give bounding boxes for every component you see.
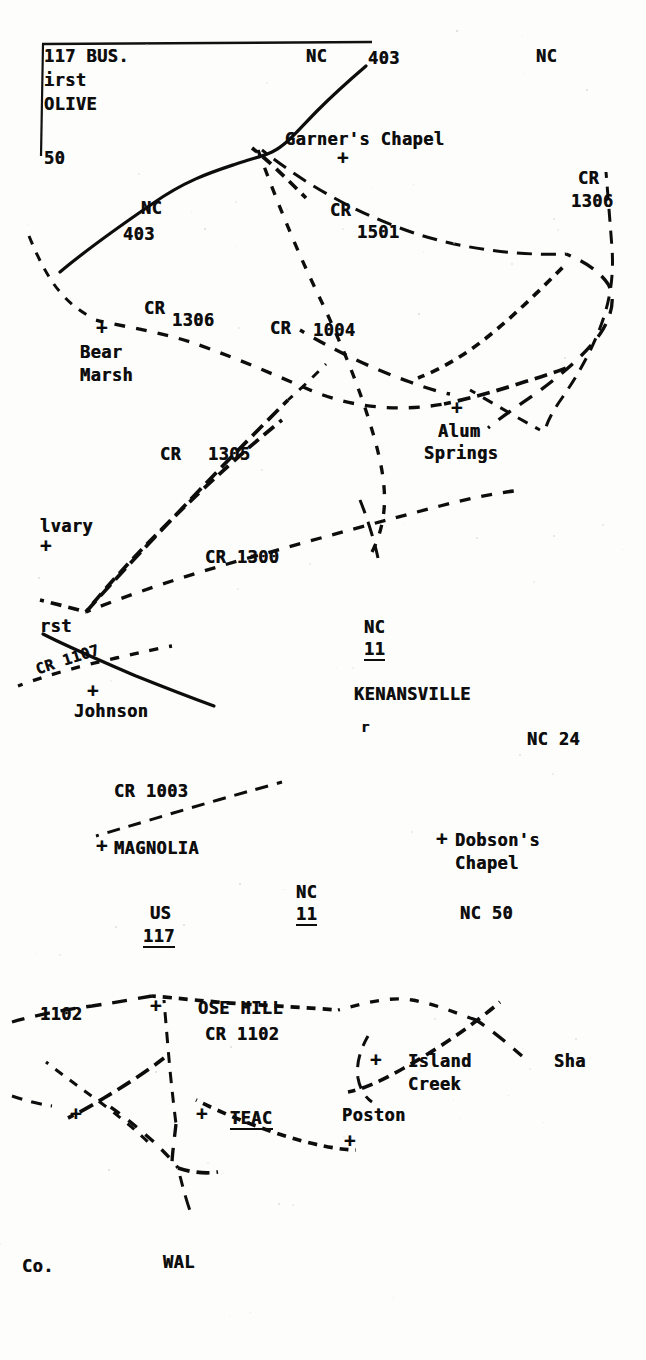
map-label-nc-top-mid: NC [306, 48, 327, 65]
scan-speck [287, 179, 288, 180]
map-label-cr-1003: CR 1003 [114, 783, 188, 800]
scan-speck [235, 201, 237, 203]
road-cr-1300-east-tail [360, 500, 378, 558]
road-rose-hill-south [172, 1124, 176, 1164]
map-label-kenansville: KENANSVILLE [354, 686, 471, 703]
map-label-cr-1501: CR [330, 202, 351, 219]
road-teachey-loop-w [100, 1100, 178, 1168]
map-label-cr-1102-left: 1102 [40, 1006, 83, 1023]
road-cr-1501-main [262, 150, 566, 254]
cross-rose-hill-marker-icon: + [150, 996, 161, 1015]
scan-speck [239, 883, 241, 885]
scan-speck [108, 1169, 110, 1171]
scan-speck [522, 1048, 523, 1049]
cross-calvary-marker-icon: + [40, 536, 51, 555]
scan-speck [35, 953, 36, 954]
road-teachey-ne-leg [196, 1100, 356, 1150]
cross-johnson-marker-icon: + [87, 681, 98, 700]
map-label-cr-1300: CR 1300 [205, 549, 279, 566]
map-label-cr-1004: CR [270, 320, 291, 337]
frame-top-rule [42, 42, 372, 44]
road-cr-1004-diag [258, 150, 385, 552]
map-label-county-label: Co. [22, 1258, 54, 1275]
map-label-nc-403-top-left: 50 [44, 150, 65, 167]
road-west-tail-lower [12, 1096, 52, 1106]
map-label-route-117: 117 [143, 928, 175, 945]
map-label-bear-marsh: Bear [80, 344, 123, 361]
map-label-route-11-mag: 11 [296, 906, 317, 923]
scan-speck [237, 588, 239, 590]
scan-speck [204, 228, 206, 230]
map-label-wallace: WAL [163, 1254, 195, 1271]
map-label-teachey: TEAC [230, 1110, 273, 1127]
map-label-cr-1306-left: CR [144, 300, 165, 317]
scan-speck [110, 680, 112, 682]
map-label-bear-marsh-2: Marsh [80, 367, 133, 384]
scan-speck [456, 30, 458, 32]
map-label-us-117-bus: 117 BUS. [44, 48, 129, 65]
route-shield-number: 11 [296, 904, 317, 926]
scan-speck [138, 173, 140, 175]
route-shield-number: 11 [364, 639, 385, 661]
road-nc-403-primary [60, 66, 366, 272]
map-label-cr-1102: CR 1102 [205, 1026, 279, 1043]
map-label-us-117: US [150, 905, 171, 922]
scan-speck [191, 212, 192, 213]
scan-speck [586, 89, 588, 91]
road-cr-1300-main [86, 490, 522, 612]
scanned-map-canvas: 117 BUS.irstOLIVE50NC403NCGarner's Chape… [0, 0, 646, 1360]
cross-island-creek-marker-icon: + [370, 1050, 381, 1069]
route-shield-number: TEAC [230, 1108, 273, 1130]
map-label-johnson: Johnson [74, 703, 148, 720]
scan-speck [575, 1038, 577, 1040]
road-alum-north-spur [418, 264, 566, 378]
map-label-nc-label-403: NC [141, 200, 162, 217]
road-island-creek-ne [338, 999, 476, 1020]
map-label-first: irst [44, 72, 87, 89]
scan-speck [602, 524, 604, 526]
map-label-magnolia: MAGNOLIA [114, 840, 199, 857]
scan-speck [453, 242, 455, 244]
road-rose-hill-vert [164, 1000, 176, 1124]
road-cr-1305-upper [288, 364, 326, 400]
road-cr-1306-right-vert [544, 172, 613, 434]
map-label-nc-magnolia: NC [296, 884, 317, 901]
scan-speck [403, 523, 404, 524]
map-label-cr-1306-left-n: 1306 [172, 312, 215, 329]
map-label-calvary: lvary [40, 518, 93, 535]
cross-bear-marsh-marker-icon: + [96, 318, 107, 337]
scan-speck [476, 537, 478, 539]
map-label-nc-24: NC 24 [527, 731, 580, 748]
scan-speck [460, 1118, 461, 1119]
map-label-dobsons-chapel-2: Chapel [455, 855, 519, 872]
scan-speck [236, 246, 237, 247]
map-label-olive: OLIVE [44, 96, 97, 113]
map-label-poston: Poston [342, 1107, 406, 1124]
map-label-dobsons-chapel: Dobson's [455, 832, 540, 849]
scan-speck [230, 1046, 232, 1048]
road-calvary-spur [40, 600, 86, 612]
scan-speck [352, 667, 354, 669]
map-label-route-11-ken: 11 [364, 641, 385, 658]
scan-speck [459, 1036, 460, 1037]
map-label-cr-1306-topright-n: 1306 [571, 193, 614, 210]
map-label-ken-tick: r [361, 720, 370, 734]
scan-speck [557, 229, 559, 231]
scan-speck [292, 1204, 294, 1206]
cross-poston-marker-icon: + [344, 1131, 355, 1150]
cross-dobsons-chapel-marker-icon: + [436, 829, 447, 848]
map-label-route-403-mid: 403 [123, 226, 155, 243]
scan-speck [434, 1018, 436, 1020]
frame-left-rule [41, 44, 43, 156]
map-label-route-403-top: 403 [368, 50, 400, 67]
map-label-alum-springs: Alum [438, 423, 481, 440]
scan-speck [543, 1122, 544, 1123]
map-label-island-creek-2: Creek [408, 1076, 461, 1093]
map-label-rose-hill: OSE HILL [198, 1000, 283, 1017]
scan-speck [38, 577, 40, 579]
cross-magnolia-marker-icon: + [96, 836, 107, 855]
scan-speck [423, 252, 424, 253]
map-label-cr-1305-n: 1305 [208, 446, 251, 463]
scan-speck [183, 924, 185, 926]
map-label-first-church: rst [40, 618, 72, 635]
